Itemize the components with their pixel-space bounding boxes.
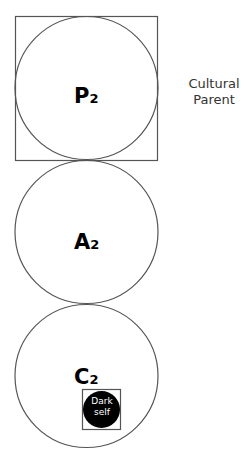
dark-self-line2: self	[84, 407, 120, 418]
adult-subscript: 2	[90, 237, 99, 252]
child-subscript: 2	[89, 372, 98, 387]
parent-letter: P	[74, 84, 89, 108]
child-label: C2	[74, 367, 98, 388]
diagram-canvas	[0, 0, 248, 466]
parent-subscript: 2	[89, 91, 98, 106]
side-label-line1: Cultural	[186, 76, 242, 92]
adult-letter: A	[74, 230, 90, 254]
parent-label: P2	[74, 86, 98, 107]
dark-self-label: Dark self	[84, 396, 120, 418]
adult-label: A2	[74, 232, 99, 253]
dark-self-line1: Dark	[84, 396, 120, 407]
cultural-parent-label: Cultural Parent	[186, 76, 242, 108]
side-label-line2: Parent	[186, 92, 242, 108]
child-letter: C	[74, 365, 89, 389]
